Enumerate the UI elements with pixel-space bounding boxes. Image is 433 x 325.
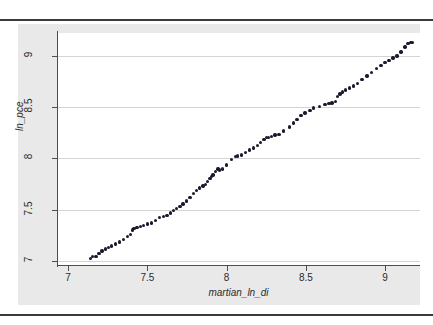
x-tick-mark	[147, 266, 148, 271]
scatter-point	[360, 78, 363, 81]
scatter-point	[410, 41, 413, 44]
scatter-point	[292, 121, 295, 124]
y-tick-mark	[52, 107, 57, 108]
x-axis-title: martian_ln_di	[57, 287, 420, 298]
x-tick-mark	[385, 266, 386, 271]
scatter-point	[206, 180, 209, 183]
scatter-point	[282, 129, 285, 132]
scatter-point	[230, 158, 233, 161]
x-tick-mark	[68, 266, 69, 271]
page-rule-top	[0, 19, 433, 21]
scatter-point	[188, 196, 191, 199]
page-rule-bottom	[0, 314, 433, 316]
scatter-point	[158, 216, 161, 219]
scatter-point	[256, 144, 259, 147]
x-tick-label: 8	[207, 272, 247, 283]
scatter-point	[248, 148, 251, 151]
y-axis-line	[57, 31, 58, 267]
scatter-point	[288, 125, 291, 128]
scatter-point	[244, 151, 247, 154]
scatter-point	[94, 255, 97, 258]
scatter-point	[240, 153, 243, 156]
scatter-point	[259, 141, 262, 144]
scatter-point	[395, 54, 398, 57]
scatter-point	[387, 59, 390, 62]
scatter-point	[370, 71, 373, 74]
scatter-point	[403, 45, 406, 48]
scatter-point	[299, 114, 302, 117]
scatter-point	[323, 103, 326, 106]
x-tick-mark	[227, 266, 228, 271]
scatter-point	[221, 167, 224, 170]
x-tick-label: 7	[48, 272, 88, 283]
y-tick-mark	[52, 210, 57, 211]
scatter-point	[365, 74, 368, 77]
y-tick-mark	[52, 158, 57, 159]
scatter-point	[162, 215, 165, 218]
gridline-y	[57, 210, 420, 211]
gridline-y	[57, 107, 420, 108]
scatter-point	[211, 173, 214, 176]
y-tick-label: 7.5	[23, 188, 34, 228]
x-tick-mark	[306, 266, 307, 271]
scatter-point	[295, 118, 298, 121]
scatter-point	[334, 100, 337, 103]
graph-region	[18, 24, 420, 305]
scatter-point	[375, 67, 378, 70]
x-tick-label: 9	[365, 272, 405, 283]
scatter-point	[273, 133, 276, 136]
scatter-point	[352, 84, 355, 87]
scatter-point	[122, 238, 125, 241]
y-tick-mark	[52, 261, 57, 262]
scatter-point	[192, 192, 195, 195]
y-tick-mark	[52, 56, 57, 57]
x-axis-line	[57, 265, 420, 266]
scatter-point	[383, 61, 386, 64]
scatter-point	[356, 82, 359, 85]
scatter-point	[348, 86, 351, 89]
scatter-point	[204, 183, 207, 186]
scatter-point	[312, 106, 315, 109]
gridline-y	[57, 158, 420, 159]
scatter-point	[169, 211, 172, 214]
scatter-point	[142, 224, 145, 227]
scatter-point	[277, 133, 280, 136]
scatter-point	[252, 146, 255, 149]
scatter-point	[308, 109, 311, 112]
scatter-point	[225, 163, 228, 166]
scatter-point	[379, 64, 382, 67]
x-tick-label: 8.5	[286, 272, 326, 283]
y-tick-label: 8	[23, 137, 34, 177]
scatter-point	[318, 105, 321, 108]
scatter-point	[146, 222, 149, 225]
scatter-point	[303, 111, 306, 114]
scatter-point	[110, 244, 113, 247]
scatter-point	[154, 219, 157, 222]
scatter-point	[150, 221, 153, 224]
y-tick-label: 7	[23, 239, 34, 279]
scatter-point	[399, 50, 402, 53]
y-axis-title: ln_pce	[14, 102, 25, 131]
scatter-point	[118, 240, 121, 243]
scatter-point	[129, 233, 132, 236]
gridline-y	[57, 56, 420, 57]
scatter-point	[391, 56, 394, 59]
scatter-point	[114, 242, 117, 245]
plot-area	[57, 33, 420, 265]
y-tick-label: 9	[23, 34, 34, 74]
gridline-y	[57, 261, 420, 262]
scatter-point	[344, 88, 347, 91]
scatter-point	[185, 199, 188, 202]
scatter-point	[181, 202, 184, 205]
x-tick-label: 7.5	[127, 272, 167, 283]
